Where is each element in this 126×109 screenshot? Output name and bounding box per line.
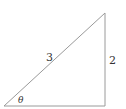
opposite-side-label: 2 — [109, 55, 116, 66]
hypotenuse-label: 3 — [46, 52, 53, 63]
triangle-diagram: 3 2 θ — [0, 0, 126, 109]
angle-theta-label: θ — [18, 96, 23, 105]
right-triangle-shape — [0, 0, 126, 109]
